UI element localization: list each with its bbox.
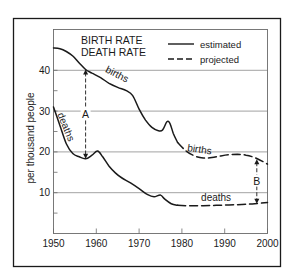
x-tick-label-1960: 1960 <box>85 238 108 249</box>
chart-title-line-2: DEATH RATE <box>81 46 146 58</box>
x-tick-label-2000: 2000 <box>256 238 279 249</box>
deaths-projected-line <box>178 203 268 206</box>
birth-death-rate-chart: 195019601970198019902000 10203040 per th… <box>0 0 294 276</box>
y-tick-label-10: 10 <box>39 187 51 198</box>
series-label-births: births <box>104 64 131 85</box>
legend: estimated projected <box>168 39 241 65</box>
x-tick-labels: 195019601970198019902000 <box>42 238 279 249</box>
y-axis-label: per thousand people <box>25 92 36 184</box>
annotation-label: B <box>253 175 260 187</box>
annotation-B: B <box>252 159 262 203</box>
y-tick-label-20: 20 <box>39 146 51 157</box>
x-tick-label-1970: 1970 <box>128 238 151 249</box>
series-label-deaths: deaths <box>55 111 76 143</box>
annotation-A: A <box>81 69 91 158</box>
series-labels: birthsdeathsbirthsdeaths <box>55 64 231 203</box>
x-tick-label-1990: 1990 <box>214 238 237 249</box>
y-tick-labels: 10203040 <box>39 65 51 198</box>
x-tick-label-1980: 1980 <box>171 238 194 249</box>
series-label-deaths: deaths <box>201 192 231 203</box>
legend-label-estimated: estimated <box>200 39 241 50</box>
annotations: AB <box>81 69 262 203</box>
y-tick-label-40: 40 <box>39 65 51 76</box>
deaths-estimated-line <box>54 107 178 205</box>
x-tick-label-1950: 1950 <box>42 238 65 249</box>
chart-title-line-1: BIRTH RATE <box>81 34 142 46</box>
legend-label-projected: projected <box>200 54 239 65</box>
y-tick-label-30: 30 <box>39 106 51 117</box>
annotation-label: A <box>82 108 89 120</box>
